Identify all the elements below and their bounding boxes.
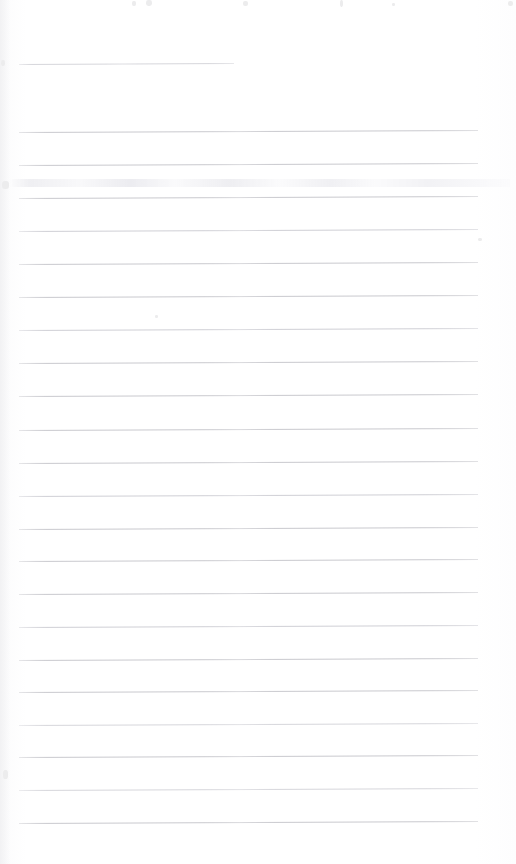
scan-speck bbox=[146, 0, 152, 6]
ruled-line bbox=[19, 788, 478, 791]
ruled-line bbox=[19, 163, 478, 166]
page-title: Blank Ruled Page bbox=[0, 0, 1, 1]
scan-speck bbox=[155, 315, 158, 318]
scan-speck bbox=[243, 1, 248, 6]
ruled-line bbox=[19, 658, 478, 661]
scan-speck bbox=[478, 238, 482, 241]
ruled-line bbox=[19, 196, 478, 199]
ruled-line bbox=[19, 527, 478, 530]
scan-speck bbox=[132, 1, 136, 6]
ruled-line bbox=[19, 821, 478, 824]
ruled-line bbox=[19, 428, 478, 431]
ruled-line bbox=[19, 690, 478, 693]
ruled-line bbox=[19, 723, 478, 726]
bleed-through-smudge bbox=[10, 179, 510, 187]
scan-speck bbox=[508, 1, 513, 6]
ruled-line bbox=[19, 229, 478, 232]
scan-speck bbox=[3, 770, 8, 779]
ruled-line bbox=[19, 394, 478, 397]
ruled-line bbox=[19, 755, 478, 758]
scan-speck bbox=[340, 0, 343, 7]
paper-surface bbox=[0, 0, 516, 864]
ruled-line bbox=[19, 295, 478, 298]
ruled-line bbox=[19, 361, 478, 364]
scan-speck bbox=[1, 60, 5, 66]
ruled-line bbox=[19, 559, 478, 562]
scanned-page: Blank Ruled Page bbox=[0, 0, 516, 864]
ruled-line bbox=[19, 130, 478, 133]
scan-speck bbox=[392, 3, 395, 6]
header-rule bbox=[19, 63, 234, 65]
ruled-line bbox=[19, 592, 478, 595]
ruled-line bbox=[19, 262, 478, 265]
scan-speck bbox=[2, 181, 9, 189]
ruled-line bbox=[19, 625, 478, 628]
ruled-line bbox=[19, 328, 478, 331]
scanner-edge-shadow bbox=[0, 0, 10, 864]
ruled-line bbox=[19, 461, 478, 464]
ruled-line bbox=[19, 494, 478, 497]
